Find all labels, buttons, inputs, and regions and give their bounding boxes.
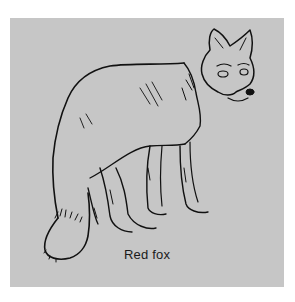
illustration-panel: Red fox bbox=[10, 18, 284, 287]
figure-caption: Red fox bbox=[10, 247, 284, 262]
